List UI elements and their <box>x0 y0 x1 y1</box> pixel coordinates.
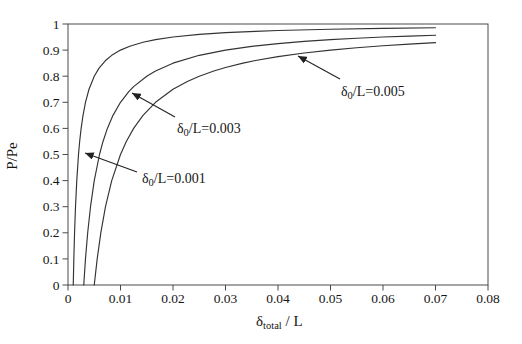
annotation-delta0-0003: δ0/L=0.003 <box>132 93 241 138</box>
annotation-delta0-0005: δ0/L=0.005 <box>298 56 405 101</box>
plot-frame <box>68 24 488 285</box>
curve-delta0-0005 <box>94 43 435 285</box>
x-axis-title: δtotal / L <box>256 313 303 331</box>
curve-delta0-0001 <box>73 28 435 285</box>
x-axis-tick-label: 0 <box>65 291 72 306</box>
x-axis-tick-label: 0.08 <box>476 291 500 306</box>
y-axis-tick-label: 0.4 <box>43 173 60 188</box>
y-axis-tick-label: 0.8 <box>43 69 60 84</box>
annotation-arrow <box>132 93 175 117</box>
y-axis-tick-label: 0.7 <box>43 95 60 110</box>
x-axis-tick-label: 0.03 <box>214 291 238 306</box>
y-axis-tick-label: 1 <box>53 17 60 32</box>
annotation-label: δ0/L=0.001 <box>142 171 206 188</box>
y-axis-tick-label: 0.2 <box>43 225 60 240</box>
annotation-label: δ0/L=0.005 <box>341 84 405 101</box>
x-axis-tick-label: 0.05 <box>319 291 343 306</box>
annotation-arrow <box>298 56 340 79</box>
load-deflection-chart: 00.010.020.030.040.050.060.070.0800.10.2… <box>0 0 522 344</box>
annotation-arrow <box>85 153 137 172</box>
x-axis-tick-label: 0.07 <box>424 291 448 306</box>
y-axis-tick-label: 0.6 <box>43 121 60 136</box>
x-axis-tick-label: 0.04 <box>266 291 290 306</box>
y-axis-tick-label: 0.9 <box>43 43 60 58</box>
y-axis-tick-label: 0 <box>53 278 60 293</box>
y-axis-tick-label: 0.1 <box>43 252 60 267</box>
y-axis-tick-label: 0.5 <box>43 147 60 162</box>
annotation-delta0-0001: δ0/L=0.001 <box>85 153 206 188</box>
annotation-label: δ0/L=0.003 <box>177 121 241 138</box>
x-axis-tick-label: 0.06 <box>371 291 395 306</box>
curve-delta0-0003 <box>84 35 436 285</box>
y-axis-tick-label: 0.3 <box>43 199 60 214</box>
y-axis-title: P/Pe <box>4 142 20 170</box>
x-axis-tick-label: 0.01 <box>109 291 133 306</box>
x-axis-tick-label: 0.02 <box>161 291 185 306</box>
figure: 00.010.020.030.040.050.060.070.0800.10.2… <box>0 0 522 344</box>
